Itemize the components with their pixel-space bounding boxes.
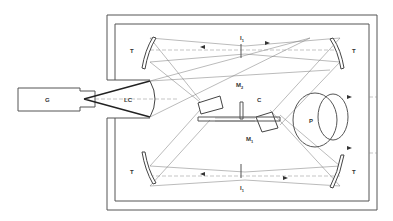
- label-t-bottom-left: T: [130, 169, 134, 175]
- mirror-t-bottom-left: [142, 152, 156, 184]
- right-port: [369, 97, 377, 153]
- mirror-t-top-right: [330, 38, 344, 69]
- optical-setup-diagram: G LC T T T T I1 I1: [0, 0, 393, 221]
- chopper-c: [240, 102, 243, 119]
- source-box: [18, 88, 95, 111]
- rays: [150, 38, 340, 186]
- label-p: P: [309, 118, 313, 124]
- arrows: [200, 41, 352, 180]
- label-m1: M1: [246, 136, 254, 144]
- sample-outer: [293, 93, 337, 147]
- label-i1-top: I1: [240, 35, 245, 43]
- label-lc: LC: [124, 97, 133, 103]
- source-g: G: [18, 88, 95, 111]
- images-i1: I1 I1: [240, 35, 245, 193]
- label-t-top-left: T: [130, 48, 134, 54]
- label-c: C: [257, 97, 262, 103]
- sample-p: P: [293, 93, 348, 147]
- prisms: M2 M1 C: [198, 82, 280, 144]
- label-i1-bottom: I1: [240, 185, 245, 193]
- sample-inner: [318, 94, 348, 140]
- label-g: G: [45, 97, 50, 103]
- mirror-t-top-left: [142, 37, 156, 69]
- label-t-top-right: T: [352, 48, 356, 54]
- prism-left: [198, 96, 223, 114]
- label-m2: M2: [236, 82, 244, 90]
- inner-frame: [115, 24, 369, 201]
- label-t-bottom-right: T: [352, 169, 356, 175]
- light-collector: LC: [84, 81, 178, 117]
